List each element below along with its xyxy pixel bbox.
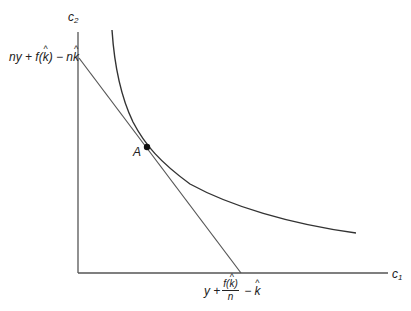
y-intercept-label: ny + f(k) − nk <box>9 51 79 63</box>
indifference-curve <box>112 30 356 233</box>
point-a-label: A <box>133 146 141 158</box>
fraction: f(k) n <box>222 279 238 302</box>
diagram-canvas <box>0 0 411 311</box>
x-axis-label: c1 <box>392 268 402 282</box>
budget-line <box>79 58 241 273</box>
point-a-marker <box>144 144 150 150</box>
x-intercept-label: y + f(k) n − k <box>204 279 260 302</box>
y-axis-label: c2 <box>68 11 78 25</box>
